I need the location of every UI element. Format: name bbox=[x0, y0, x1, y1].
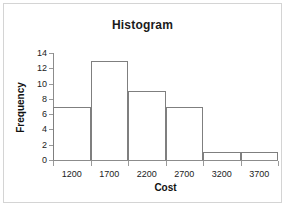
chart-title: Histogram bbox=[4, 18, 281, 32]
plot-area: 02468101214 120017002200270032003700 bbox=[53, 53, 278, 161]
x-axis-tick-label: 1700 bbox=[99, 169, 119, 179]
x-axis-tick bbox=[53, 161, 54, 166]
y-axis-tick-label: 2 bbox=[42, 140, 47, 150]
y-axis-tick bbox=[49, 68, 53, 69]
histogram-bar bbox=[91, 61, 129, 160]
histogram-bar bbox=[203, 152, 241, 160]
y-axis-tick-label: 6 bbox=[42, 109, 47, 119]
x-axis-title: Cost bbox=[53, 182, 278, 193]
x-axis-tick-label: 1200 bbox=[62, 169, 82, 179]
histogram-bar bbox=[128, 91, 166, 160]
y-axis-tick bbox=[49, 84, 53, 85]
x-axis-tick bbox=[91, 161, 92, 166]
histogram-bar bbox=[241, 152, 279, 160]
y-axis-tick-label: 4 bbox=[42, 124, 47, 134]
histogram-bar bbox=[166, 107, 204, 161]
y-axis-tick bbox=[49, 99, 53, 100]
y-axis-tick bbox=[49, 53, 53, 54]
x-axis-tick-label: 2200 bbox=[137, 169, 157, 179]
x-axis-tick bbox=[128, 161, 129, 166]
histogram-bar bbox=[53, 107, 91, 161]
y-axis-tick-label: 10 bbox=[37, 79, 47, 89]
x-axis-tick bbox=[166, 161, 167, 166]
x-axis-tick-label: 2700 bbox=[174, 169, 194, 179]
y-axis-tick-label: 0 bbox=[42, 155, 47, 165]
y-axis-title: Frequency bbox=[13, 56, 27, 158]
x-axis-tick bbox=[203, 161, 204, 166]
x-axis-tick-label: 3200 bbox=[212, 169, 232, 179]
x-axis-tick bbox=[278, 161, 279, 166]
y-axis-tick-label: 14 bbox=[37, 48, 47, 58]
y-axis-title-text: Frequency bbox=[15, 82, 26, 133]
x-axis-tick-label: 3700 bbox=[249, 169, 269, 179]
chart-frame: Histogram Frequency 02468101214 12001700… bbox=[3, 3, 282, 203]
y-axis-tick-label: 12 bbox=[37, 63, 47, 73]
x-axis-tick bbox=[241, 161, 242, 166]
y-axis-tick-label: 8 bbox=[42, 94, 47, 104]
